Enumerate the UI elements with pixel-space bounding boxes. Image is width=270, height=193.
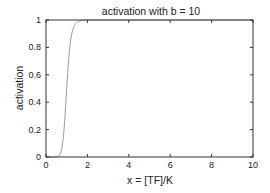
plot-frame <box>46 20 253 157</box>
y-tick-label: 0 <box>36 152 41 162</box>
activation-curve <box>46 20 253 157</box>
x-tick-label: 10 <box>248 160 258 170</box>
x-tick-label: 4 <box>126 160 131 170</box>
x-tick-label: 0 <box>43 160 48 170</box>
x-tick-label: 6 <box>168 160 173 170</box>
y-axis-label: activation <box>13 66 25 111</box>
chart-title: activation with b = 10 <box>102 5 201 17</box>
x-tick-label: 2 <box>85 160 90 170</box>
y-tick-label: 0.6 <box>28 70 41 80</box>
x-axis-ticks: 0246810 <box>43 20 258 170</box>
activation-chart: activation with b = 10 0246810 00.20.40.… <box>0 0 270 193</box>
y-tick-label: 1 <box>36 15 41 25</box>
y-axis-ticks: 00.20.40.60.81 <box>28 15 253 162</box>
y-tick-label: 0.2 <box>28 125 41 135</box>
y-tick-label: 0.4 <box>28 97 41 107</box>
x-axis-label: x = [TF]/K <box>127 174 173 186</box>
x-tick-label: 8 <box>209 160 214 170</box>
y-tick-label: 0.8 <box>28 42 41 52</box>
plot-area: 0246810 00.20.40.60.81 <box>28 15 258 170</box>
